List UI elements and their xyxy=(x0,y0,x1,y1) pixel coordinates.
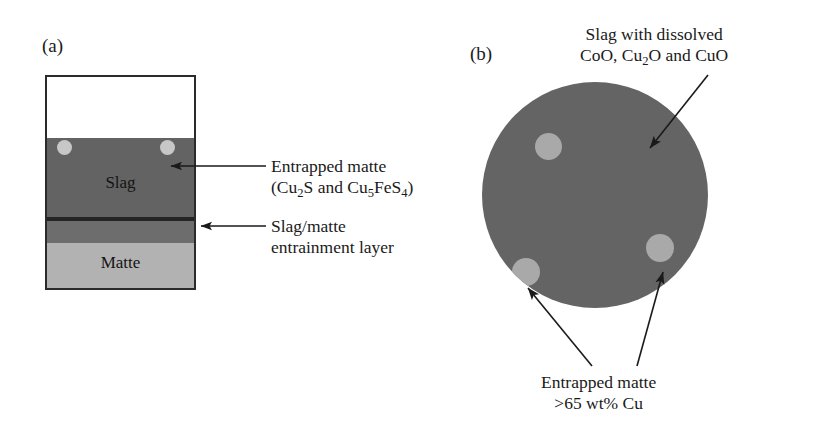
callout-slag-matte-line1: Slag/matte xyxy=(271,216,394,237)
callout-slag-matte-line2: entrainment layer xyxy=(271,237,394,258)
slag-layer-label: Slag xyxy=(47,173,194,193)
oxide-formula-prefix: CoO, Cu xyxy=(580,45,642,65)
callout-slag-dissolved-oxides: Slag with dissolved CoO, Cu2O and CuO xyxy=(580,24,728,69)
panel-b-slag-droplet xyxy=(482,82,708,308)
callout-slag-dissolved-line1: Slag with dissolved xyxy=(580,24,728,45)
oxide-formula-suffix: O and CuO xyxy=(649,45,729,65)
panel-b-label: (b) xyxy=(470,42,492,65)
figure-root: (a) Slag Matte Entrapped matte (Cu2S and… xyxy=(0,0,839,439)
entrapped-matte-droplet-left xyxy=(57,140,72,155)
formula-part-mid: S and Cu xyxy=(304,177,368,197)
callout-slag-dissolved-line2: CoO, Cu2O and CuO xyxy=(580,45,728,69)
callout-entrapped-matte-a-line1: Entrapped matte xyxy=(271,156,413,177)
panel-a-cross-section: Slag Matte xyxy=(45,75,196,290)
matte-layer-label: Matte xyxy=(47,253,194,273)
callout-entrapped-matte-b-line2: >65 wt% Cu xyxy=(541,393,656,414)
formula-part-prefix: (Cu xyxy=(271,177,297,197)
callout-slag-matte-entrainment: Slag/matte entrainment layer xyxy=(271,216,394,259)
callout-entrapped-matte-a: Entrapped matte (Cu2S and Cu5FeS4) xyxy=(271,156,413,201)
layer-entrainment xyxy=(47,221,194,243)
entrapped-matte-inclusion-bottom-left xyxy=(512,258,540,286)
callout-entrapped-matte-b: Entrapped matte >65 wt% Cu xyxy=(541,372,656,415)
formula-part-mid2: FeS xyxy=(374,177,401,197)
callout-entrapped-matte-b-line1: Entrapped matte xyxy=(541,372,656,393)
panel-a-label: (a) xyxy=(42,34,63,57)
layer-gas xyxy=(47,77,194,138)
entrapped-matte-inclusion-bottom-right xyxy=(646,234,674,262)
callout-entrapped-matte-a-line2: (Cu2S and Cu5FeS4) xyxy=(271,177,413,201)
entrapped-matte-droplet-right xyxy=(160,140,175,155)
formula-part-suffix: ) xyxy=(408,177,414,197)
entrapped-matte-inclusion-top-left xyxy=(535,133,562,160)
